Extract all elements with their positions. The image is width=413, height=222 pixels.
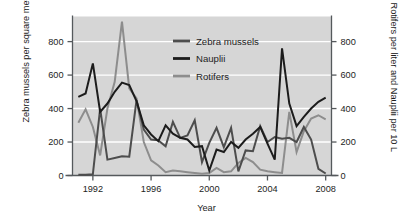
y-axis-left-label: Zebra mussels per square meter: [21, 3, 32, 123]
svg-text:600: 600: [48, 70, 63, 80]
svg-text:600: 600: [341, 70, 356, 80]
svg-text:0: 0: [58, 171, 63, 181]
svg-text:1992: 1992: [83, 184, 103, 194]
svg-text:2000: 2000: [199, 184, 219, 194]
y-axis-right-label: Rotifers per liter and Nauplii per 10 L: [388, 3, 399, 123]
svg-text:800: 800: [48, 37, 63, 47]
svg-text:400: 400: [341, 104, 356, 114]
plot-area: 0200400600800020040060080019921996200020…: [0, 0, 413, 222]
svg-text:200: 200: [48, 137, 63, 147]
legend-label-zebra-mussels: Zebra mussels: [196, 36, 259, 47]
svg-text:2008: 2008: [315, 184, 335, 194]
legend-label-rotifers: Rotifers: [196, 71, 229, 82]
svg-text:2004: 2004: [257, 184, 277, 194]
svg-text:200: 200: [341, 137, 356, 147]
legend-label-nauplii: Nauplii: [196, 53, 225, 64]
line-chart: Zebra mussels per square meter Rotifers …: [0, 0, 413, 222]
x-axis-label: Year: [0, 203, 413, 213]
svg-text:400: 400: [48, 104, 63, 114]
svg-text:1996: 1996: [141, 184, 161, 194]
svg-text:0: 0: [341, 171, 346, 181]
svg-text:800: 800: [341, 37, 356, 47]
